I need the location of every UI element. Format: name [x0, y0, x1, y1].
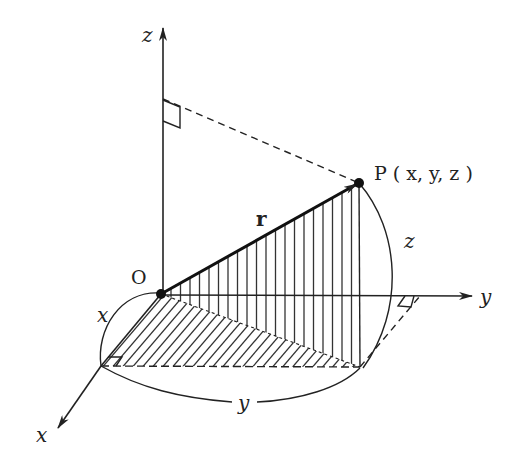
origin-point	[156, 289, 166, 299]
y-parallel-dashed-line	[101, 366, 360, 367]
point-p-label: P ( x, y, z )	[374, 162, 473, 184]
y-dimension-arc-left	[101, 366, 232, 402]
z-projection-dashed-line	[163, 99, 359, 183]
y-axis-label: y	[479, 285, 492, 309]
z-dimension-arc	[359, 183, 392, 368]
x-axis-label: x	[36, 423, 47, 447]
point-p	[354, 178, 364, 188]
z-axis-label: z	[141, 23, 153, 47]
projection-diagonal	[161, 294, 360, 367]
y-dimension-label: y	[237, 391, 250, 415]
position-vector-r	[161, 184, 357, 294]
right-angle-marker-z	[163, 100, 180, 128]
vector-r-label: r	[256, 207, 267, 231]
origin-label: O	[131, 266, 147, 288]
z-dimension-label: z	[403, 229, 415, 253]
y-dimension-arc-right	[257, 368, 360, 402]
x-dimension-label: x	[97, 303, 108, 327]
coordinate-diagram: z y x O P ( x, y, z ) r x y z	[0, 0, 520, 476]
right-angle-marker-y	[398, 296, 414, 307]
y-axis	[161, 295, 472, 296]
x-axis	[58, 366, 101, 428]
p-vertical-line	[359, 183, 360, 367]
